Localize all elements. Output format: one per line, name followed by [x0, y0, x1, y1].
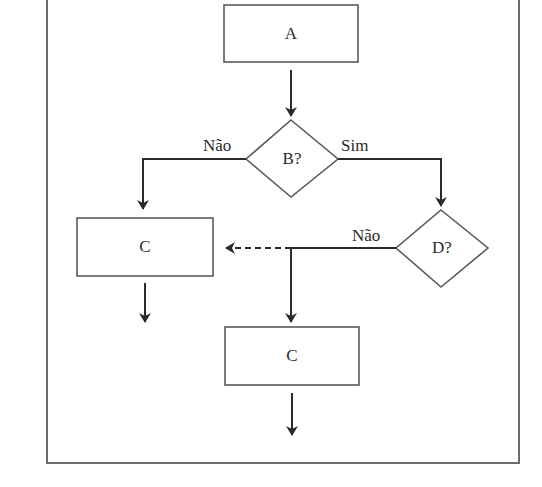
- edge-d-no-label: Não: [352, 226, 380, 245]
- edge-b-no-label: Não: [203, 136, 231, 155]
- edge-b-no: [143, 159, 246, 209]
- node-d-label: D?: [432, 238, 452, 257]
- node-b-label: B?: [283, 149, 302, 168]
- flowchart-diagram: A B? Não Sim C D? Não C: [0, 0, 542, 487]
- node-c-bottom: C: [225, 327, 359, 385]
- node-c-bottom-label: C: [286, 346, 297, 365]
- node-a-label: A: [285, 24, 298, 43]
- edge-b-yes-label: Sim: [341, 136, 368, 155]
- edge-b-yes: [338, 159, 441, 206]
- node-c-left-label: C: [139, 237, 150, 256]
- node-c-left: C: [77, 218, 213, 276]
- node-b: B?: [246, 120, 338, 197]
- node-a: A: [224, 5, 358, 62]
- node-d: D?: [396, 210, 488, 287]
